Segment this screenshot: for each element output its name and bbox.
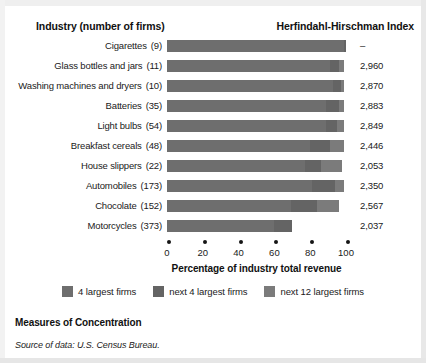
column-header-hhi: Herfindahl-Hirschman Index: [277, 20, 414, 32]
bar-segment-3: [321, 160, 342, 172]
row-hhi-value: 2,446: [360, 140, 412, 151]
row-firm-count: (48): [146, 140, 162, 151]
row-industry-name: Light bulbs: [97, 120, 141, 131]
legend-swatch: [153, 286, 164, 297]
figure-edge-top: [0, 0, 426, 6]
row-hhi-value: –: [360, 40, 412, 51]
stacked-bar: [167, 180, 344, 192]
chart-row: Glass bottles and jars(11)2,960: [0, 58, 426, 78]
stacked-bar: [167, 120, 344, 132]
chart-row: Chocolate(152)2,567: [0, 198, 426, 218]
legend-item: next 4 largest firms: [153, 286, 247, 297]
x-axis-tick-label: 100: [338, 247, 354, 258]
row-hhi-value: 2,960: [360, 60, 412, 71]
row-industry-name: Automobiles: [86, 180, 137, 191]
chart-row: Washing machines and dryers(10)2,870: [0, 78, 426, 98]
chart-legend: 4 largest firmsnext 4 largest firmsnext …: [0, 286, 426, 297]
row-firm-count: (22): [146, 160, 162, 171]
figure-caption-title: Measures of Concentration: [15, 317, 141, 328]
legend-label: next 4 largest firms: [169, 286, 247, 297]
row-firm-count: (54): [146, 120, 162, 131]
bar-segment-1: [167, 100, 326, 112]
bar-segment-1: [167, 220, 274, 232]
x-axis-tick-label: 40: [233, 247, 244, 258]
row-label-motorcycles: Motorcycles(373): [88, 220, 162, 231]
column-header-industry: Industry (number of firms): [36, 20, 165, 32]
stacked-bar: [167, 100, 344, 112]
x-axis-tick-marker: [167, 240, 171, 244]
x-axis-title: Percentage of industry total revenue: [167, 263, 346, 274]
x-axis-tick-label: 60: [269, 247, 280, 258]
x-axis-tick-label: 80: [305, 247, 316, 258]
chart-plot-area: Cigarettes(9)–Glass bottles and jars(11)…: [0, 38, 426, 238]
row-firm-count: (10): [146, 80, 162, 91]
chart-row: Motorcycles(373)2,037: [0, 218, 426, 238]
row-hhi-value: 2,870: [360, 80, 412, 91]
x-axis-tick-label: 20: [198, 247, 209, 258]
row-label-washing-machines-and-dryers: Washing machines and dryers(10): [18, 80, 162, 91]
row-industry-name: Washing machines and dryers: [18, 80, 141, 91]
x-axis-tick-marker: [310, 240, 314, 244]
row-industry-name: Motorcycles: [88, 220, 137, 231]
stacked-bar: [167, 40, 346, 52]
row-label-automobiles: Automobiles(173): [86, 180, 162, 191]
bar-segment-2: [312, 180, 335, 192]
row-firm-count: (11): [146, 60, 162, 71]
legend-label: 4 largest firms: [78, 286, 136, 297]
legend-item: 4 largest firms: [62, 286, 136, 297]
figure-edge-bottom: [0, 358, 426, 363]
bar-segment-2: [291, 200, 318, 212]
x-axis-tick-marker: [346, 240, 350, 244]
bar-segment-2: [344, 40, 346, 52]
row-firm-count: (152): [141, 200, 162, 211]
row-hhi-value: 2,037: [360, 220, 412, 231]
bar-segment-2: [274, 220, 292, 232]
row-hhi-value: 2,883: [360, 100, 412, 111]
bar-segment-3: [337, 120, 344, 132]
bar-segment-1: [167, 200, 291, 212]
bar-segment-3: [330, 140, 344, 152]
stacked-bar: [167, 160, 342, 172]
x-axis-tick-label: 0: [164, 247, 169, 258]
row-hhi-value: 2,567: [360, 200, 412, 211]
stacked-bar: [167, 80, 344, 92]
row-firm-count: (373): [141, 220, 162, 231]
bar-segment-3: [339, 60, 344, 72]
row-label-breakfast-cereals: Breakfast cereals(48): [71, 140, 162, 151]
row-firm-count: (35): [146, 100, 162, 111]
row-industry-name: Chocolate: [95, 200, 136, 211]
x-axis: Percentage of industry total revenue 020…: [0, 240, 426, 276]
row-hhi-value: 2,350: [360, 180, 412, 191]
chart-row: Automobiles(173)2,350: [0, 178, 426, 198]
chart-figure: Industry (number of firms) Herfindahl-Hi…: [0, 0, 426, 363]
row-label-batteries: Batteries(35): [106, 100, 162, 111]
bar-segment-2: [330, 60, 339, 72]
bar-segment-3: [317, 200, 338, 212]
chart-row: House slippers(22)2,053: [0, 158, 426, 178]
row-firm-count: (173): [141, 180, 162, 191]
row-label-light-bulbs: Light bulbs(54): [97, 120, 162, 131]
chart-row: Breakfast cereals(48)2,446: [0, 138, 426, 158]
bar-segment-2: [326, 100, 339, 112]
row-label-house-slippers: House slippers(22): [81, 160, 162, 171]
stacked-bar: [167, 220, 292, 232]
row-firm-count: (9): [151, 40, 162, 51]
x-axis-tick-marker: [239, 240, 243, 244]
x-axis-tick-marker: [203, 240, 207, 244]
row-label-glass-bottles-and-jars: Glass bottles and jars(11): [54, 60, 162, 71]
row-industry-name: Cigarettes: [105, 40, 147, 51]
bar-segment-1: [167, 140, 310, 152]
legend-swatch: [62, 286, 73, 297]
row-hhi-value: 2,053: [360, 160, 412, 171]
bar-segment-1: [167, 160, 305, 172]
stacked-bar: [167, 140, 344, 152]
figure-source-note: Source of data: U.S. Census Bureau.: [15, 340, 160, 350]
legend-label: next 12 largest firms: [280, 286, 363, 297]
bar-segment-1: [167, 60, 330, 72]
row-industry-name: Glass bottles and jars: [54, 60, 142, 71]
bar-segment-1: [167, 120, 326, 132]
bar-segment-3: [335, 180, 344, 192]
row-label-cigarettes: Cigarettes(9): [105, 40, 162, 51]
row-industry-name: Batteries: [106, 100, 142, 111]
row-industry-name: Breakfast cereals: [71, 140, 142, 151]
